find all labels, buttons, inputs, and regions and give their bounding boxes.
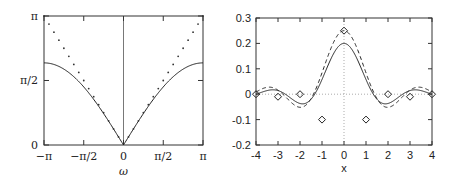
x-axis-label: ω (119, 165, 128, 178)
dotted-curve-point (152, 96, 154, 98)
dotted-curve-point (182, 47, 184, 49)
x-tick-label: -4 (251, 149, 261, 161)
y-tick-label: 0.2 (236, 37, 251, 49)
dotted-curve-point (177, 55, 179, 57)
y-tick-label: -0.2 (232, 139, 251, 151)
x-tick-label: 2 (385, 149, 391, 161)
dotted-curve-point (197, 23, 199, 25)
dotted-curve-point (78, 72, 80, 74)
dotted-curve-point (133, 128, 135, 130)
x-tick-label: π/2 (154, 150, 172, 163)
y-tick-label: π (31, 10, 38, 23)
dotted-curve-point (162, 80, 164, 82)
dotted-curve-point (118, 136, 120, 138)
x-tick-label: 4 (429, 149, 435, 161)
dotted-curve-point (157, 88, 159, 90)
dotted-curve-point (73, 63, 75, 65)
dotted-curve-point (138, 120, 140, 122)
diamond-marker (363, 116, 370, 123)
diamond-marker (319, 116, 326, 123)
x-tick-label: -2 (295, 149, 305, 161)
solid-curve (256, 43, 432, 103)
dotted-curve-point (187, 39, 189, 41)
dotted-curve-point (68, 55, 70, 57)
x-tick-label: -3 (273, 149, 283, 161)
dotted-curve-point (98, 104, 100, 106)
x-tick-label: π (199, 150, 206, 163)
x-tick-label: 1 (363, 149, 369, 161)
dotted-curve-point (88, 88, 90, 90)
dotted-curve-point (108, 120, 110, 122)
y-tick-label: 0 (245, 88, 251, 100)
x-tick-label: -1 (317, 149, 327, 161)
x-tick-label: −π/2 (70, 150, 97, 163)
x-tick-label: 3 (407, 149, 413, 161)
dotted-curve-point (83, 80, 85, 82)
y-tick-label: 0.3 (236, 12, 251, 24)
dotted-curve-point (43, 15, 45, 17)
left-chart: −π−π/20π/2π0π/2πω (0, 0, 225, 185)
dotted-curve-point (128, 136, 130, 138)
dotted-curve-point (63, 47, 65, 49)
dotted-curve-point (202, 15, 204, 17)
dotted-curve-point (113, 128, 115, 130)
right-chart-svg: -4-3-2-101234-0.2-0.100.10.20.3x (225, 0, 449, 185)
x-tick-label: 0 (120, 150, 127, 163)
left-chart-svg: −π−π/20π/2π0π/2πω (0, 0, 225, 185)
y-tick-label: 0.1 (236, 63, 251, 75)
dotted-curve-point (48, 23, 50, 25)
y-tick-label: 0 (31, 139, 38, 152)
diamond-marker (297, 91, 304, 98)
dotted-curve-point (167, 72, 169, 74)
dotted-curve-point (103, 112, 105, 114)
dotted-curve-point (147, 104, 149, 106)
dotted-curve-point (93, 96, 95, 98)
y-tick-label: -0.1 (232, 114, 251, 126)
dotted-curve-point (142, 112, 144, 114)
dotted-curve-point (172, 63, 174, 65)
dotted-curve-point (192, 31, 194, 33)
dotted-curve-point (58, 39, 60, 41)
right-chart: -4-3-2-101234-0.2-0.100.10.20.3x (225, 0, 449, 185)
dotted-curve-point (53, 31, 55, 33)
x-tick-label: 0 (341, 149, 347, 161)
x-tick-label: −π (36, 150, 52, 163)
x-axis-label: x (341, 162, 347, 174)
y-tick-label: π/2 (20, 74, 38, 87)
